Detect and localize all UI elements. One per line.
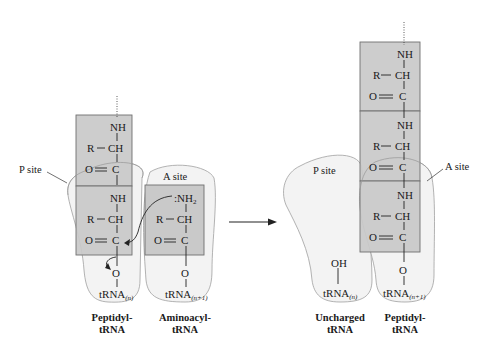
right-res3-o: O (369, 231, 377, 243)
left-res1-nh: NH (110, 121, 126, 133)
uncharged-oh: OH (331, 257, 347, 269)
right-p-site-label: P site (313, 165, 336, 177)
left-p-site-pointer (47, 172, 67, 183)
left-res1-c: C (112, 163, 119, 175)
reaction-arrow-head (268, 219, 277, 226)
right-res3-c: C (399, 231, 406, 243)
right-res2-o: O (369, 161, 377, 173)
left-res1-ch: CH (108, 142, 123, 154)
right-res2-nh: NH (397, 119, 413, 131)
left-res2-r: R (87, 213, 94, 225)
aminoacyl-o: O (154, 234, 162, 246)
right-res2-r: R (373, 140, 380, 152)
left-ester-o: O (112, 267, 120, 279)
right-res1-nh: NH (397, 48, 413, 60)
right-res1-c: C (399, 90, 406, 102)
uncharged-trna: tRNA(n) (323, 287, 357, 303)
right-res3-ch: CH (395, 210, 410, 222)
aminoacyl-ester-o: O (181, 267, 189, 279)
right-a-site-label: A site (445, 161, 469, 173)
left-trna-n: tRNA(n) (99, 288, 133, 304)
aminoacyl-nh2: :NH2 (174, 192, 196, 208)
peptide-bond-formation-diagram: P site A site NH R CH O C NH R CH O C O … (0, 0, 494, 346)
right-trna-n1: tRNA(n+1) (383, 287, 426, 303)
caption-peptidyl-trna-right: Peptidyl-tRNA (375, 312, 435, 336)
aminoacyl-trna: tRNA(n+1) (165, 288, 208, 304)
right-res3-r: R (373, 210, 380, 222)
left-res2-c: C (112, 234, 119, 246)
left-a-site-label: A site (163, 171, 187, 183)
aminoacyl-r: R (156, 213, 163, 225)
right-res1-r: R (373, 69, 380, 81)
left-res2-ch: CH (108, 213, 123, 225)
left-res2-nh: NH (110, 192, 126, 204)
caption-uncharged-trna: UnchargedtRNA (308, 312, 372, 336)
left-p-site-label: P site (19, 164, 42, 176)
right-res2-c: C (399, 161, 406, 173)
right-ester-o: O (399, 264, 407, 276)
left-res1-o: O (85, 163, 93, 175)
right-res1-o: O (369, 90, 377, 102)
aminoacyl-ch: CH (177, 213, 192, 225)
left-res2-o: O (85, 234, 93, 246)
caption-peptidyl-trna-left: Peptidyl-tRNA (82, 312, 142, 336)
right-p-site-outline (284, 155, 372, 302)
caption-aminoacyl-trna: Aminoacyl-tRNA (150, 312, 220, 336)
left-res1-r: R (87, 142, 94, 154)
right-res3-nh: NH (397, 189, 413, 201)
right-res2-ch: CH (395, 140, 410, 152)
right-res1-ch: CH (395, 69, 410, 81)
aminoacyl-c: C (181, 234, 188, 246)
